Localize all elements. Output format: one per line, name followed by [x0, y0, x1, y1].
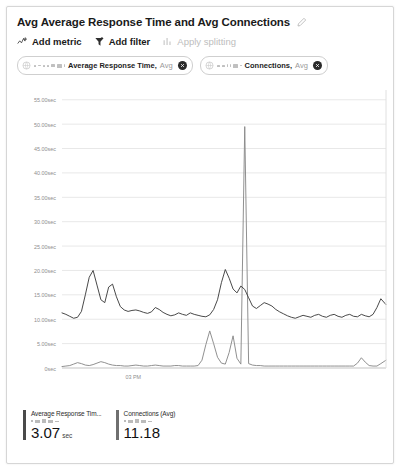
- close-icon[interactable]: [178, 61, 187, 70]
- apply-splitting-label: Apply splitting: [177, 36, 236, 47]
- legend-item-response-time[interactable]: Average Response Tim... 3.07sec: [23, 410, 102, 440]
- y-axis-tick-label: 35.00sec: [34, 195, 56, 201]
- chart-series-line: [62, 269, 386, 318]
- y-axis-tick-label: 5.00sec: [37, 341, 56, 347]
- legend-value-number: 11.18: [124, 424, 160, 441]
- x-axis-tick-label: 03 PM: [125, 374, 141, 380]
- chip-aggregation: Avg: [295, 61, 308, 70]
- chip-scope-detail: [34, 64, 65, 68]
- chip-metric-name: Connections,: [245, 61, 293, 70]
- y-axis-tick-label: 20.00sec: [34, 268, 56, 274]
- y-axis-tick-label: 15.00sec: [34, 292, 56, 298]
- chart-legend: Average Response Tim... 3.07sec Connecti…: [7, 402, 393, 440]
- y-axis-tick-label: 25.00sec: [34, 244, 56, 250]
- chart-toolbar: Add metric Add filter Apply splitting: [7, 30, 393, 51]
- scope-icon: [205, 61, 214, 70]
- chip-scope-detail: [217, 64, 242, 68]
- legend-color-swatch: [23, 410, 26, 440]
- add-metric-label: Add metric: [32, 36, 82, 47]
- chip-metric-name: Average Response Time,: [68, 61, 157, 70]
- apply-splitting-button[interactable]: Apply splitting: [162, 36, 236, 47]
- y-axis-tick-label: 10.00sec: [34, 317, 56, 323]
- y-axis-tick-label: 45.00sec: [34, 146, 56, 152]
- legend-value: 3.07sec: [31, 425, 102, 440]
- metric-chip-response-time[interactable]: Average Response Time, Avg: [17, 56, 193, 75]
- chart-title-row: Avg Average Response Time and Avg Connec…: [7, 7, 393, 30]
- chip-aggregation: Avg: [160, 61, 173, 70]
- legend-value-number: 3.07: [31, 424, 60, 441]
- metric-chip-connections[interactable]: Connections, Avg: [200, 56, 328, 75]
- metrics-chart-panel: Avg Average Response Time and Avg Connec…: [6, 6, 394, 464]
- y-axis-tick-label: 40.00sec: [34, 170, 56, 176]
- legend-meta-glyphs: [124, 419, 176, 423]
- legend-series-name: Average Response Tim...: [31, 410, 102, 417]
- scope-icon: [22, 61, 31, 70]
- legend-color-swatch: [116, 410, 119, 440]
- splitting-icon: [162, 36, 173, 47]
- y-axis-tick-label: 50.00sec: [34, 122, 56, 128]
- add-metric-icon: [17, 36, 28, 47]
- page-title: Avg Average Response Time and Avg Connec…: [17, 16, 290, 28]
- legend-item-connections[interactable]: Connections (Avg) 11.18: [116, 410, 176, 440]
- chart-svg: 0sec5.00sec10.00sec15.00sec20.00sec25.00…: [7, 82, 394, 402]
- pencil-icon[interactable]: [296, 17, 307, 28]
- metric-chip-list: Average Response Time, Avg Connections,: [7, 51, 393, 82]
- legend-value-unit: sec: [62, 432, 72, 439]
- close-icon[interactable]: [313, 61, 322, 70]
- y-axis-tick-label: 0sec: [45, 366, 57, 372]
- legend-meta-glyphs: [31, 419, 102, 423]
- y-axis-tick-label: 55.00sec: [34, 97, 56, 103]
- filter-icon: [94, 36, 105, 47]
- legend-series-name: Connections (Avg): [124, 410, 176, 417]
- add-filter-button[interactable]: Add filter: [94, 36, 151, 47]
- legend-value: 11.18: [124, 425, 176, 440]
- add-metric-button[interactable]: Add metric: [17, 36, 82, 47]
- y-axis-tick-label: 30.00sec: [34, 219, 56, 225]
- add-filter-label: Add filter: [109, 36, 151, 47]
- chart-plot-area[interactable]: 0sec5.00sec10.00sec15.00sec20.00sec25.00…: [7, 82, 394, 402]
